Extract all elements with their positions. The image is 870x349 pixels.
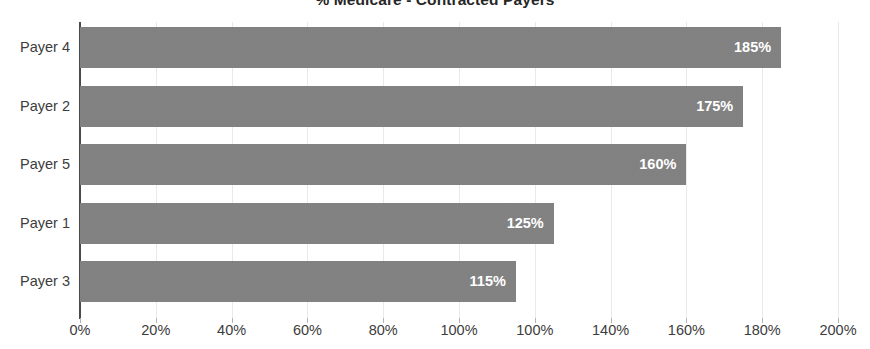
bar-row: 115% [80,261,838,302]
tick-mark [611,318,612,323]
bar-series: 185%175%160%125%115% [80,22,838,318]
tick-label: 40% [217,322,246,338]
bar[interactable] [80,203,554,244]
plot-area: 185%175%160%125%115% [80,22,838,318]
category-label: Payer 3 [20,261,70,302]
bar-row: 175% [80,86,838,127]
category-axis-labels: Payer 4Payer 2Payer 5Payer 1Payer 3 [0,22,70,318]
category-label: Payer 4 [20,27,70,68]
chart-screenshot: % Medicare - Contracted Payers 185%175%1… [0,0,870,349]
chart-title: % Medicare - Contracted Payers [0,0,870,9]
tick-mark [686,318,687,323]
tick-mark [535,318,536,323]
tick-label: 20% [141,322,170,338]
tick-label: 200% [819,322,856,338]
category-label: Payer 5 [20,144,70,185]
category-label: Payer 1 [20,203,70,244]
bar[interactable] [80,27,781,68]
tick-label: 60% [293,322,322,338]
bar[interactable] [80,261,516,302]
tick-mark [383,318,384,323]
tick-mark [80,318,81,323]
bar-row: 160% [80,144,838,185]
category-label: Payer 2 [20,86,70,127]
tick-mark [232,318,233,323]
bar-row: 185% [80,27,838,68]
tick-label: 0% [70,322,91,338]
tick-mark [838,318,839,323]
tick-label: 80% [369,322,398,338]
tick-mark [307,318,308,323]
value-axis-tick-labels: 0%20%40%60%80%100%100%140%160%180%200% [0,322,870,349]
gridline [838,22,839,318]
tick-label: 180% [744,322,781,338]
tick-label: 100% [516,322,553,338]
tick-label: 100% [440,322,477,338]
bar-value-label: 115% [460,261,506,302]
bar-value-label: 160% [630,144,676,185]
bar[interactable] [80,144,686,185]
bar-value-label: 185% [725,27,771,68]
bar-row: 125% [80,203,838,244]
tick-mark [459,318,460,323]
tick-mark [762,318,763,323]
tick-label: 140% [592,322,629,338]
bar-value-label: 175% [687,86,733,127]
bar-value-label: 125% [498,203,544,244]
tick-mark [156,318,157,323]
bar[interactable] [80,86,743,127]
tick-label: 160% [668,322,705,338]
